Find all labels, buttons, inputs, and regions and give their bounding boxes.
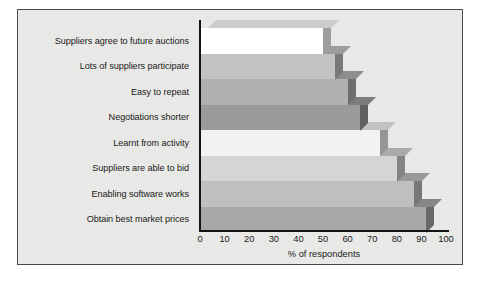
bar-front-face: [200, 79, 348, 105]
x-tick-40: 40: [293, 234, 303, 244]
category-label: Lots of suppliers participate: [80, 61, 189, 71]
x-tick-70: 70: [367, 234, 377, 244]
bar-front-face: [200, 28, 323, 54]
bar-front-face: [200, 130, 380, 156]
category-label: Negotiations shorter: [109, 112, 189, 122]
x-axis-tick-labels: 0102030405060708090100: [199, 234, 459, 246]
x-tick-100: 100: [438, 234, 454, 244]
x-tick-0: 0: [197, 234, 202, 244]
x-tick-80: 80: [392, 234, 402, 244]
category-label: Suppliers are able to bid: [92, 163, 189, 173]
x-tick-60: 60: [342, 234, 352, 244]
y-axis-line: [199, 20, 201, 232]
bar-front-face: [200, 105, 360, 131]
bar-top-face: [208, 20, 339, 28]
chart-figure: Obtain best market pricesEnabling softwa…: [0, 0, 481, 286]
category-label: Easy to repeat: [131, 87, 189, 97]
x-tick-10: 10: [219, 234, 229, 244]
category-label: Suppliers agree to future auctions: [55, 36, 189, 46]
bar-front-face: [200, 54, 335, 80]
x-axis-line: [199, 230, 449, 232]
category-label: Enabling software works: [92, 189, 189, 199]
bar-1: [200, 20, 331, 46]
bar-front-face: [200, 156, 397, 182]
bar-front-face: [200, 207, 426, 233]
x-tick-90: 90: [416, 234, 426, 244]
x-tick-30: 30: [269, 234, 279, 244]
chart-panel: Obtain best market pricesEnabling softwa…: [17, 9, 463, 265]
category-axis-labels: Obtain best market pricesEnabling softwa…: [18, 10, 198, 264]
x-tick-50: 50: [318, 234, 328, 244]
x-axis-title: % of respondents: [199, 249, 449, 259]
category-label: Obtain best market prices: [87, 214, 189, 224]
x-tick-20: 20: [244, 234, 254, 244]
plot-area: [199, 20, 449, 232]
category-label: Learnt from activity: [113, 138, 189, 148]
bar-front-face: [200, 181, 414, 207]
